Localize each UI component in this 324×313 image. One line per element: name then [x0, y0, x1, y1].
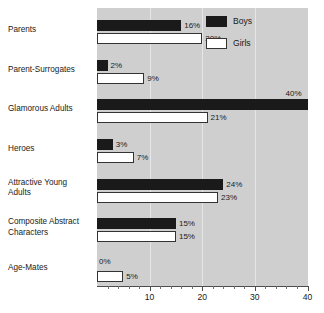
bar-boys-2	[97, 99, 308, 110]
category-label-5: Composite AbstractCharacters	[8, 217, 94, 238]
x-tick-minor-16	[181, 286, 182, 289]
bar-value-girls-5: 15%	[179, 231, 195, 242]
bar-girls-1	[97, 73, 144, 84]
x-tick-major-40	[308, 286, 309, 291]
gridline-20	[202, 8, 203, 286]
x-tick-minor-26	[234, 286, 235, 289]
x-tick-minor-36	[286, 286, 287, 289]
x-tick-label-10: 10	[145, 292, 155, 302]
bar-value-girls-2: 21%	[211, 112, 227, 123]
bar-value-boys-3: 3%	[116, 139, 128, 150]
x-tick-minor-2	[108, 286, 109, 289]
bar-girls-0	[97, 33, 202, 44]
x-tick-minor-34	[276, 286, 277, 289]
bar-value-girls-3: 7%	[137, 152, 149, 163]
category-label-line1: Age-Mates	[8, 263, 94, 274]
bar-value-boys-5: 15%	[179, 218, 195, 229]
bar-girls-5	[97, 231, 176, 242]
category-label-3: Heroes	[8, 144, 94, 155]
category-label-line1: Attractive Young	[8, 178, 94, 189]
x-tick-label-40: 40	[303, 292, 313, 302]
legend-swatch-girls-icon	[206, 38, 227, 49]
bar-boys-5	[97, 218, 176, 229]
x-tick-minor-22	[213, 286, 214, 289]
category-label-line1: Parent-Surrogates	[8, 65, 94, 76]
category-label-line2: Characters	[8, 228, 94, 239]
x-tick-minor-4	[118, 286, 119, 289]
bar-girls-2	[97, 112, 208, 123]
category-label-line1: Heroes	[8, 144, 94, 155]
x-tick-minor-24	[223, 286, 224, 289]
bar-value-boys-6: 0%	[99, 257, 111, 266]
gridline-30	[255, 8, 256, 286]
bar-boys-1	[97, 60, 108, 71]
x-tick-minor-14	[171, 286, 172, 289]
category-label-1: Parent-Surrogates	[8, 65, 94, 76]
x-tick-major-20	[202, 286, 203, 291]
category-label-4: Attractive YoungAdults	[8, 178, 94, 199]
x-tick-label-30: 30	[250, 292, 260, 302]
category-label-2: Glamorous Adults	[8, 104, 94, 115]
bar-girls-3	[97, 152, 134, 163]
x-tick-minor-28	[244, 286, 245, 289]
x-tick-minor-6	[129, 286, 130, 289]
category-label-line1: Parents	[8, 25, 94, 36]
bar-girls-6	[97, 271, 123, 282]
x-tick-label-20: 20	[197, 292, 207, 302]
x-tick-minor-38	[297, 286, 298, 289]
legend-swatch-boys-icon	[206, 16, 227, 27]
category-label-6: Age-Mates	[8, 263, 94, 274]
category-label-0: Parents	[8, 25, 94, 36]
bar-value-girls-6: 5%	[126, 271, 138, 282]
bar-chart: 16%20%2%9%40%21%3%7%24%23%15%15%0%5% Par…	[0, 0, 324, 313]
gridline-10	[150, 8, 151, 286]
bar-girls-4	[97, 192, 218, 203]
bar-value-boys-2: 40%	[286, 89, 302, 98]
category-label-line1: Glamorous Adults	[8, 104, 94, 115]
x-tick-minor-8	[139, 286, 140, 289]
bar-boys-4	[97, 179, 223, 190]
x-tick-major-10	[150, 286, 151, 291]
bar-value-boys-1: 2%	[111, 60, 123, 71]
x-tick-minor-12	[160, 286, 161, 289]
bar-value-boys-0: 16%	[184, 20, 200, 31]
bar-boys-3	[97, 139, 113, 150]
legend-label-boys: Boys	[233, 14, 252, 29]
x-tick-minor-18	[192, 286, 193, 289]
x-tick-major-30	[255, 286, 256, 291]
x-tick-minor-32	[265, 286, 266, 289]
bar-value-girls-1: 9%	[147, 73, 159, 84]
bar-boys-0	[97, 20, 181, 31]
bar-value-girls-4: 23%	[221, 192, 237, 203]
legend-label-girls: Girls	[233, 36, 251, 51]
category-label-line1: Composite Abstract	[8, 217, 94, 228]
bar-value-boys-4: 24%	[226, 179, 242, 190]
category-label-line2: Adults	[8, 188, 94, 199]
